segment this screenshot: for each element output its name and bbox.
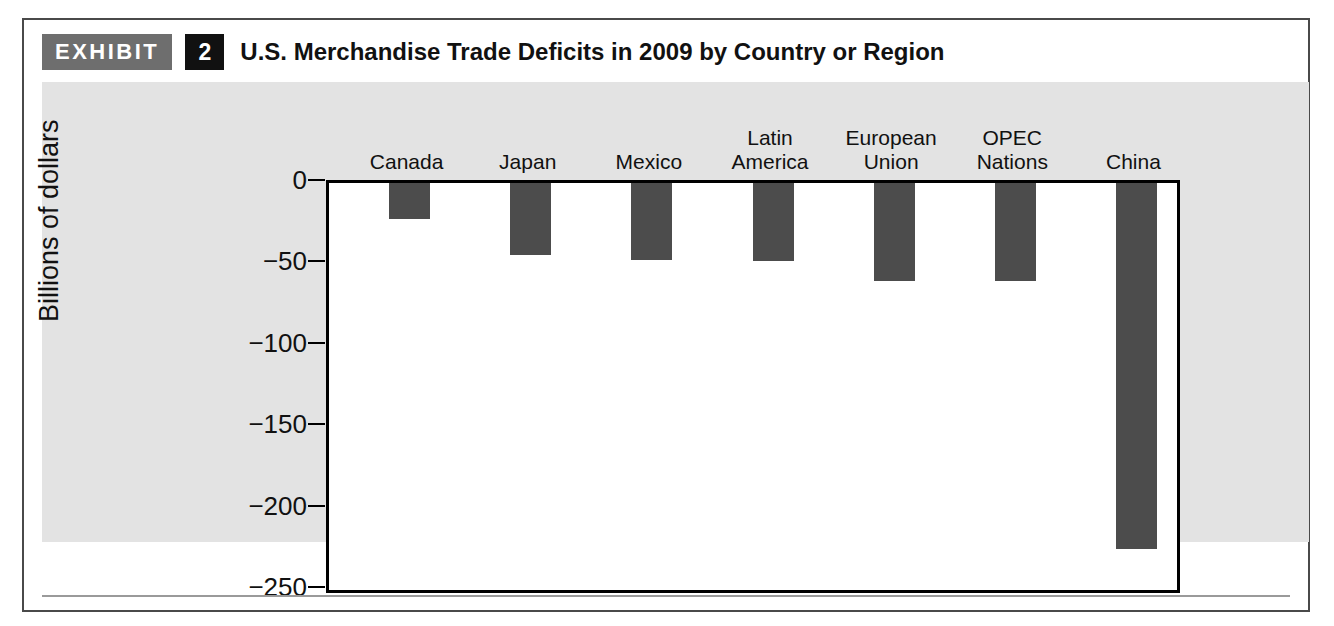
y-tick-mark xyxy=(308,179,325,181)
exhibit-title: U.S. Merchandise Trade Deficits in 2009 … xyxy=(240,38,944,66)
bar-canada xyxy=(389,183,430,219)
category-label-japan: Japan xyxy=(458,150,598,174)
category-label-line: Union xyxy=(821,150,961,174)
bar-mexico xyxy=(631,183,672,260)
y-tick-label: −250 xyxy=(157,572,307,603)
y-tick-label: −200 xyxy=(157,490,307,521)
exhibit-number-badge: 2 xyxy=(185,34,224,70)
bar-opec-nations xyxy=(995,183,1036,281)
y-tick-label: −150 xyxy=(157,409,307,440)
category-label-opec-nations: OPECNations xyxy=(942,126,1082,174)
y-tick-mark xyxy=(308,505,325,507)
category-label-latin-america: LatinAmerica xyxy=(700,126,840,174)
category-label-line: Japan xyxy=(458,150,598,174)
category-label-line: Latin xyxy=(700,126,840,150)
category-label-line: OPEC xyxy=(942,126,1082,150)
y-tick-label: −100 xyxy=(157,327,307,358)
chart-panel: Billions of dollars 0−50−100−150−200−250… xyxy=(42,82,1309,542)
y-tick-mark xyxy=(308,423,325,425)
y-tick-mark xyxy=(308,586,325,588)
y-tick-label: 0 xyxy=(157,165,307,196)
category-label-line: Nations xyxy=(942,150,1082,174)
plot-area xyxy=(326,180,1180,593)
exhibit-header: EXHIBIT 2 U.S. Merchandise Trade Deficit… xyxy=(42,34,944,70)
bar-china xyxy=(1116,183,1157,549)
exhibit-frame: EXHIBIT 2 U.S. Merchandise Trade Deficit… xyxy=(22,18,1310,612)
bar-latin-america xyxy=(753,183,794,261)
bar-european-union xyxy=(874,183,915,281)
y-tick-mark xyxy=(308,342,325,344)
category-label-line: China xyxy=(1063,150,1203,174)
category-label-china: China xyxy=(1063,150,1203,174)
bar-japan xyxy=(510,183,551,255)
category-label-line: America xyxy=(700,150,840,174)
y-axis-title: Billions of dollars xyxy=(34,119,65,322)
category-label-line: European xyxy=(821,126,961,150)
bottom-divider xyxy=(42,595,1290,597)
category-label-line: Mexico xyxy=(579,150,719,174)
category-label-european-union: EuropeanUnion xyxy=(821,126,961,174)
category-label-line: Canada xyxy=(337,150,477,174)
y-tick-label: −50 xyxy=(157,246,307,277)
category-label-mexico: Mexico xyxy=(579,150,719,174)
y-tick-mark xyxy=(308,260,325,262)
category-label-canada: Canada xyxy=(337,150,477,174)
exhibit-badge: EXHIBIT xyxy=(42,34,172,70)
